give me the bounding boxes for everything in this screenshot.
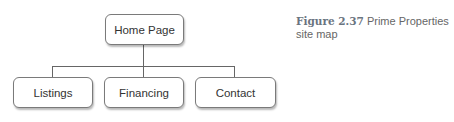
node-label: Contact [216, 87, 256, 99]
node-home-page: Home Page [105, 14, 184, 45]
horizontal-connector [52, 66, 235, 67]
figure-number: Figure 2.37 [296, 15, 364, 27]
trunk-connector [143, 45, 144, 77]
drop-connector-listings [52, 66, 53, 77]
figure-caption: Figure 2.37Prime Properties site map [296, 15, 451, 41]
node-contact: Contact [195, 77, 276, 108]
drop-connector-contact [234, 66, 235, 77]
node-label: Listings [34, 87, 73, 99]
node-label: Home Page [114, 24, 175, 36]
node-financing: Financing [104, 77, 184, 108]
node-listings: Listings [13, 77, 93, 108]
node-label: Financing [119, 87, 169, 99]
